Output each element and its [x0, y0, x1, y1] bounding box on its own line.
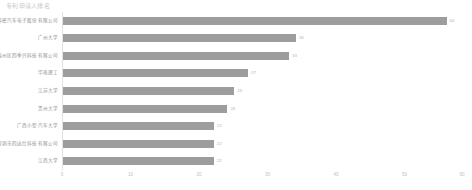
category-label: 肇庆市端州区四季兴科技有限公司 [0, 53, 58, 59]
bar-group: 25 [63, 87, 242, 95]
bar-row: 华南理工 27 [0, 65, 472, 83]
plot-area: 广州瑞立科密汽车电子股份有限公司 56 广州大学 34 肇庆市端州区四季兴科技有… [0, 12, 472, 170]
x-tick-label: 20 [196, 172, 201, 177]
bar-row: 深圳市四达仕科技有限公司 22 [0, 135, 472, 153]
x-tick-label: 0 [61, 172, 64, 177]
bar-value-label: 25 [237, 87, 242, 95]
category-label: 江西大学 [38, 158, 58, 164]
category-label: 广西小型汽车大学 [17, 123, 58, 129]
bar[interactable] [63, 122, 214, 130]
bar-group: 34 [63, 34, 304, 42]
bar[interactable] [63, 105, 227, 113]
bar-row: 肇庆市端州区四季兴科技有限公司 33 [0, 47, 472, 65]
bar-value-label: 34 [299, 34, 304, 42]
bar[interactable] [63, 87, 234, 95]
bar-group: 33 [63, 52, 297, 60]
bar-chart: 专利申请人排名 广州瑞立科密汽车电子股份有限公司 56 广州大学 34 肇庆市端… [0, 0, 472, 190]
bar-value-label: 33 [292, 52, 297, 60]
bar[interactable] [63, 17, 447, 25]
bar-value-label: 27 [251, 69, 256, 77]
bar-group: 56 [63, 17, 454, 25]
category-label: 江苏大学 [38, 88, 58, 94]
chart-title: 专利申请人排名 [6, 1, 50, 10]
bar-group: 22 [63, 157, 222, 165]
bar-row: 广州大学 34 [0, 30, 472, 48]
x-tick-label: 50 [402, 172, 407, 177]
bar-group: 27 [63, 69, 256, 77]
bar-value-label: 22 [217, 122, 222, 130]
bar-row: 江苏大学 25 [0, 82, 472, 100]
bar-value-label: 24 [230, 105, 235, 113]
x-tick-label: 30 [265, 172, 270, 177]
bar[interactable] [63, 69, 248, 77]
bar[interactable] [63, 140, 214, 148]
bar[interactable] [63, 34, 296, 42]
bar[interactable] [63, 52, 289, 60]
category-label: 广州瑞立科密汽车电子股份有限公司 [0, 18, 58, 24]
category-label: 深圳市四达仕科技有限公司 [0, 141, 58, 147]
category-label: 广州大学 [38, 35, 58, 41]
bar[interactable] [63, 157, 214, 165]
x-tick-label: 40 [333, 172, 338, 177]
bar-row: 江西大学 22 [0, 152, 472, 170]
bar-group: 22 [63, 122, 222, 130]
bar-value-label: 56 [450, 17, 455, 25]
category-label: 贵州大学 [38, 106, 58, 112]
bar-value-label: 22 [217, 157, 222, 165]
x-tick-label: 10 [128, 172, 133, 177]
bar-row: 贵州大学 24 [0, 100, 472, 118]
bar-group: 24 [63, 105, 235, 113]
bar-row: 广州瑞立科密汽车电子股份有限公司 56 [0, 12, 472, 30]
x-axis: 0 10 20 30 40 50 60 [0, 170, 472, 190]
bar-value-label: 22 [217, 140, 222, 148]
bar-group: 22 [63, 140, 222, 148]
x-tick-label: 60 [459, 172, 464, 177]
category-label: 华南理工 [38, 70, 58, 76]
bar-row: 广西小型汽车大学 22 [0, 117, 472, 135]
